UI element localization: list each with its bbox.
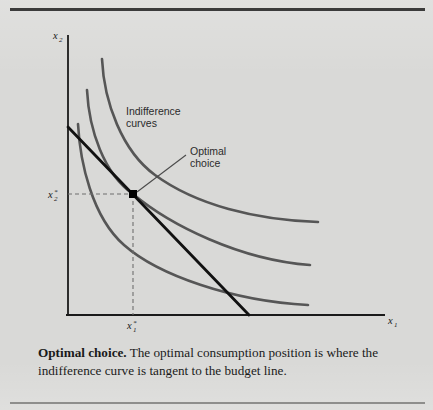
x-axis-title: x [387, 315, 393, 326]
x-tick-label-x1-star: x [126, 320, 132, 331]
x-tick-label-x1-star-superscript: * [133, 319, 137, 327]
indifference-curve-optimal [87, 90, 310, 265]
optimal-choice-point [129, 190, 137, 198]
optimal-choice-label-line2: choice [190, 157, 221, 169]
caption-title: Optimal choice. [38, 345, 127, 360]
figure-page: Indifference curves Optimal choice x 2 x… [0, 0, 433, 410]
bottom-rule [10, 402, 425, 404]
x-tick-label-x1-star-subscript: 1 [133, 326, 137, 334]
indifference-curves-label-line1: Indifference [126, 105, 181, 117]
optimal-choice-leader-line [137, 155, 186, 192]
optimal-choice-diagram: Indifference curves Optimal choice x 2 x… [0, 12, 433, 337]
optimal-choice-label-line1: Optimal [190, 145, 226, 157]
top-rule [10, 8, 425, 11]
y-axis-title-subscript: 2 [59, 36, 63, 44]
indifference-curves-label-line2: curves [126, 117, 157, 129]
y-tick-label-x2-star: x [47, 189, 53, 200]
y-tick-label-x2-star-subscript: 2 [54, 195, 58, 203]
x-axis-title-subscript: 1 [394, 321, 398, 329]
y-tick-label-x2-star-superscript: * [54, 188, 58, 196]
y-axis-title: x [52, 30, 58, 41]
figure-caption: Optimal choice. The optimal consumption … [38, 344, 410, 379]
